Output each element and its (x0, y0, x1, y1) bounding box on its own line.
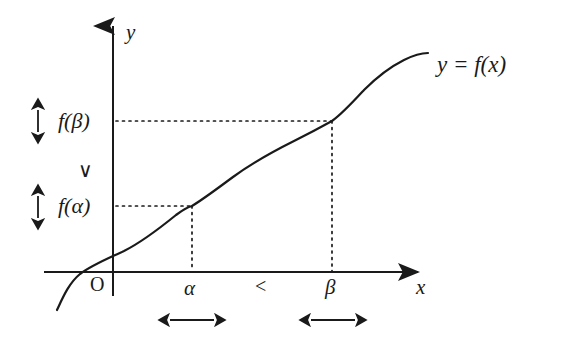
beta-label: β (325, 277, 335, 298)
origin-label: O (90, 274, 104, 294)
y-comparison-symbol: ∨ (78, 160, 93, 180)
x-comparison-symbol: < (255, 276, 266, 296)
f-alpha-label: f(α) (58, 195, 90, 217)
alpha-label: α (184, 278, 195, 299)
curve-equation-label: y = f(x) (437, 53, 506, 76)
f-beta-label: f(β) (58, 110, 90, 132)
function-graph-figure: y x O y = f(x) f(β) ∨ f(α) α < β (0, 0, 561, 348)
x-axis-label: x (416, 277, 425, 298)
y-axis-label: y (126, 22, 135, 43)
